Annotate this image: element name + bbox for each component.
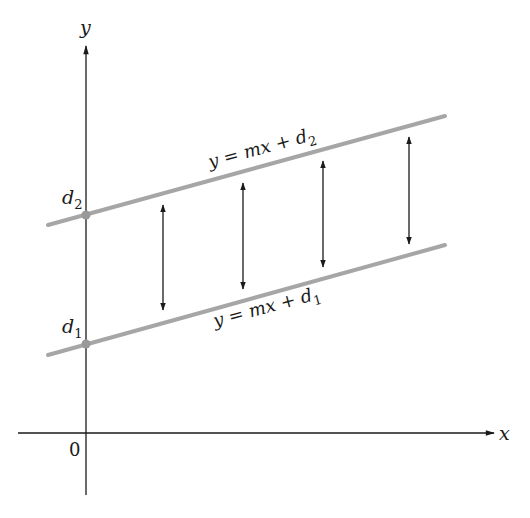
d1-label-main: d (62, 315, 74, 337)
lower-eq-sub: 1 (312, 292, 324, 309)
d2-intercept-point (82, 211, 91, 220)
lower-line-equation: y = mx + d1 (210, 282, 324, 335)
origin-label: 0 (69, 439, 80, 460)
d2-label-sub: 2 (74, 197, 82, 212)
d2-label-main: d (62, 186, 74, 208)
upper-line (48, 116, 445, 225)
upper-eq-sub: 2 (307, 133, 319, 150)
d1-label-sub: 1 (74, 326, 82, 341)
d1-label: d1 (62, 315, 82, 341)
y-axis-label: y (79, 16, 91, 38)
d1-intercept-point (82, 340, 91, 349)
x-axis-label: x (499, 422, 510, 444)
upper-eq-main: y = mx + d (205, 125, 310, 172)
parallel-lines-diagram: x y 0 d2 d1 y = mx + d2 y = mx + d1 (0, 0, 530, 518)
lower-eq-main: y = mx + d (210, 284, 315, 331)
d2-label: d2 (62, 186, 82, 212)
